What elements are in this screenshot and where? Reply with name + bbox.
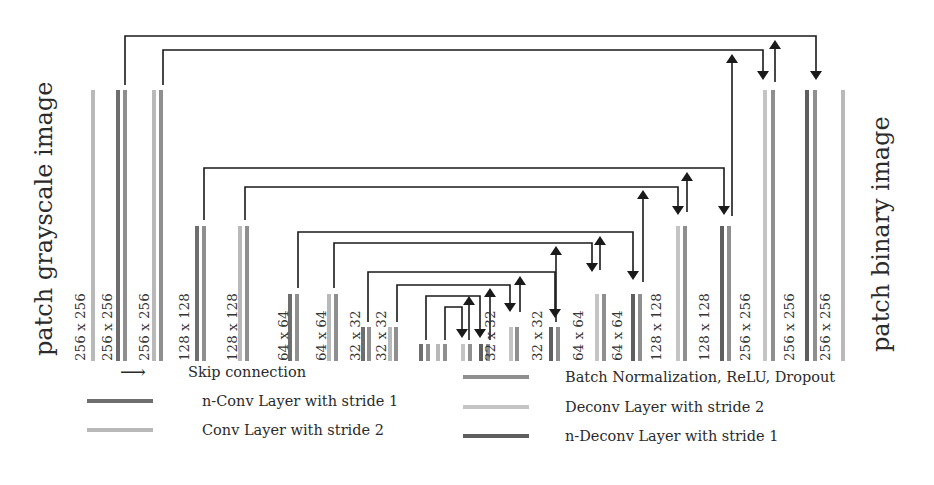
ndeconv-bar xyxy=(805,90,809,361)
deconv2-bar xyxy=(595,294,599,361)
layer-13 xyxy=(509,327,519,361)
layer-8: 32 x 32 xyxy=(373,310,398,361)
bn-bar xyxy=(394,327,398,361)
layer-15: 64 x 64 xyxy=(570,294,606,361)
conv2-bar xyxy=(436,344,440,361)
dimension-label: 256 x 256 xyxy=(781,293,797,361)
legend-label: Skip connection xyxy=(188,364,306,380)
arrow-down-icon xyxy=(627,271,639,280)
legend-item-batchnorm: Batch Normalization, ReLU, Dropout xyxy=(463,369,835,385)
conv2-bar xyxy=(91,90,95,361)
bn-bar xyxy=(602,294,606,361)
dimension-label: 32 x 32 xyxy=(347,310,363,361)
layer-10 xyxy=(436,344,447,361)
layer-1: 256 x 256 xyxy=(99,90,127,361)
arrow-up-icon xyxy=(637,190,649,199)
ndeconv-bar xyxy=(549,327,553,361)
deconv2-swatch xyxy=(463,405,529,409)
nconv-bar xyxy=(419,344,423,361)
dimension-label: 64 x 64 xyxy=(609,310,625,361)
bn-bar xyxy=(159,90,163,361)
dimension-label: 128 x 128 xyxy=(224,293,240,361)
nconv-bar xyxy=(195,226,199,361)
skip-connection-4 xyxy=(298,232,633,288)
dimension-label: 128 x 128 xyxy=(648,293,664,361)
layer-21: 256 x 256 xyxy=(817,90,845,361)
dimension-label: 128 x 128 xyxy=(696,293,712,361)
bn-bar xyxy=(727,226,731,361)
deconv2-bar xyxy=(509,327,513,361)
deconv2-bar xyxy=(676,226,680,361)
legend-item-nconv: n-Conv Layer with stride 1 xyxy=(87,393,398,409)
deconv2-bar xyxy=(461,344,465,361)
dimension-label: 32 x 32 xyxy=(482,310,498,361)
ndeconv-swatch xyxy=(463,434,529,438)
skip-connection-0 xyxy=(125,36,816,85)
layer-18: 128 x 128 xyxy=(696,226,731,361)
arrow-up-icon xyxy=(463,296,475,305)
arrow-down-icon xyxy=(718,206,730,215)
bn-bar xyxy=(771,90,775,361)
skip-connection-9 xyxy=(445,307,462,340)
arrow-down-icon xyxy=(504,303,516,312)
layer-11 xyxy=(461,344,472,361)
dimension-label: 128 x 128 xyxy=(176,293,192,361)
arrow-up-icon xyxy=(681,172,693,181)
layer-17: 128 x 128 xyxy=(648,226,687,361)
bn-bar xyxy=(367,327,371,361)
bn-bar xyxy=(245,226,249,361)
arrow-right-icon: ⟶ xyxy=(100,364,166,380)
bn-bar xyxy=(556,327,560,361)
deconv2-bar xyxy=(763,90,767,361)
arrow-up-icon xyxy=(726,54,738,63)
layer-5: 64 x 64 xyxy=(275,294,299,361)
dimension-label: 32 x 32 xyxy=(373,310,389,361)
arrow-up-icon xyxy=(514,276,526,285)
skip-connection-1 xyxy=(163,50,763,85)
output-title-text: patch binary image xyxy=(867,116,895,352)
layer-4: 128 x 128 xyxy=(224,226,249,361)
layer-2: 256 x 256 xyxy=(136,90,163,361)
bn-bar xyxy=(202,226,206,361)
bn-bar xyxy=(515,327,519,361)
layer-9 xyxy=(419,344,430,361)
input-title-text: patch grayscale image xyxy=(30,82,58,356)
bn-bar xyxy=(638,294,642,361)
layer-6: 64 x 64 xyxy=(313,294,338,361)
layer-16: 64 x 64 xyxy=(609,294,642,361)
arrow-down-icon xyxy=(757,71,769,80)
dimension-label: 64 x 64 xyxy=(275,310,291,361)
arrow-up-icon xyxy=(769,40,781,49)
layer-0: 256 x 256 xyxy=(72,90,95,361)
bn-bar xyxy=(443,344,447,361)
legend-item-conv2: Conv Layer with stride 2 xyxy=(87,422,384,438)
bn-bar xyxy=(334,294,338,361)
skip-connection-5 xyxy=(334,243,592,288)
legend-label: n-Conv Layer with stride 1 xyxy=(202,393,398,409)
dimension-label: 64 x 64 xyxy=(570,310,586,361)
dimension-label: 256 x 256 xyxy=(99,293,115,361)
conv2-swatch xyxy=(87,428,153,432)
legend-label: Batch Normalization, ReLU, Dropout xyxy=(565,369,835,385)
legend-item-skip-connection: ⟶ Skip connection xyxy=(100,364,306,380)
dimension-label: 256 x 256 xyxy=(737,293,753,361)
dimension-label: 256 x 256 xyxy=(136,293,152,361)
nconv-bar xyxy=(116,90,120,361)
legend-label: Conv Layer with stride 2 xyxy=(202,422,384,438)
legend-label: Deconv Layer with stride 2 xyxy=(565,399,764,415)
dimension-label: 32 x 32 xyxy=(529,310,545,361)
dimension-label: 256 x 256 xyxy=(72,293,88,361)
dimension-label: 256 x 256 xyxy=(817,293,833,361)
layer-12: 32 x 32 xyxy=(479,310,498,361)
arrow-up-icon xyxy=(484,288,496,297)
conv2-bar xyxy=(841,90,845,361)
arrow-down-icon xyxy=(549,309,561,318)
layer-3: 128 x 128 xyxy=(176,226,206,361)
skip-connection-3 xyxy=(245,187,678,220)
bn-bar xyxy=(468,344,472,361)
conv2-bar xyxy=(152,90,156,361)
layer-stack: 256 x 256256 x 256256 x 256128 x 128128 … xyxy=(72,90,845,361)
legend-item-deconv2: Deconv Layer with stride 2 xyxy=(463,399,764,415)
arrow-up-icon xyxy=(550,246,562,255)
arrow-up-icon xyxy=(594,236,606,245)
